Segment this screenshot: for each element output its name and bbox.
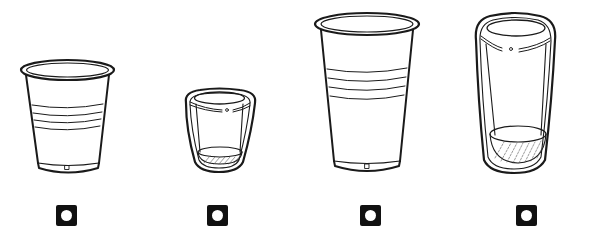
marker-dot (521, 210, 532, 221)
circle-in-square-icon (56, 205, 77, 226)
marker-dot (61, 210, 72, 221)
marker-dot (212, 210, 223, 221)
cup-diagram: Line illustrations of four drinking cups… (0, 0, 590, 246)
circle-in-square-icon (360, 205, 381, 226)
cup-2-short-tumbler (186, 89, 255, 173)
circle-in-square-icon (207, 205, 228, 226)
circle-in-square-icon (516, 205, 537, 226)
cup-3-tall-disposable (315, 13, 419, 171)
cup-1-short-disposable (21, 60, 114, 173)
cup-4-tall-tumbler (476, 13, 555, 173)
marker-dot (365, 210, 376, 221)
cups-illustration (0, 0, 590, 246)
